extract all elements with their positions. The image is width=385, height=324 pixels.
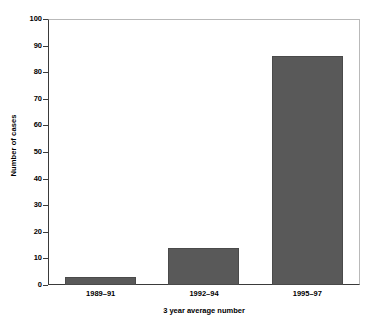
- bar[interactable]: [272, 56, 343, 285]
- y-axis-tick-label: 40: [34, 175, 42, 183]
- bar[interactable]: [168, 248, 239, 285]
- y-axis-tick-labels: 0102030405060708090100: [22, 19, 42, 285]
- x-axis-tick-labels: 1989–911992–941995–97: [49, 290, 359, 302]
- y-axis-tick-label: 20: [34, 228, 42, 236]
- y-axis-tick-label: 60: [34, 122, 42, 130]
- y-axis-tick-label: 70: [34, 95, 42, 103]
- y-axis-tick-label: 30: [34, 201, 42, 209]
- y-axis-tick-label: 100: [29, 15, 42, 23]
- y-axis-tick-label: 50: [34, 148, 42, 156]
- x-axis-tick-label: 1989–91: [49, 290, 152, 298]
- y-axis-title-text: Number of cases: [10, 114, 19, 176]
- bar-slot: [256, 20, 359, 285]
- bar[interactable]: [65, 277, 136, 285]
- bar-chart: Number of cases 0102030405060708090100 1…: [0, 0, 385, 324]
- y-axis-tick-label: 10: [34, 255, 42, 263]
- y-axis-title: Number of cases: [6, 0, 22, 290]
- y-axis-tick-label: 90: [34, 42, 42, 50]
- y-axis-tick-label: 80: [34, 68, 42, 76]
- bar-slot: [152, 20, 255, 285]
- x-axis-tick-label: 1992–94: [152, 290, 255, 298]
- bars-layer: [49, 20, 359, 285]
- x-axis-tick-label: 1995–97: [256, 290, 359, 298]
- y-axis-tick-mark: [43, 285, 48, 286]
- bar-slot: [49, 20, 152, 285]
- x-axis-title: 3 year average number: [48, 307, 360, 315]
